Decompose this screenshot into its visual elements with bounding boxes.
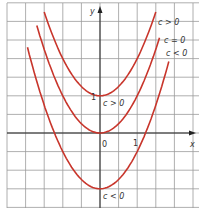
y-axis-arrow-icon xyxy=(98,6,103,13)
curves xyxy=(28,12,169,189)
curve-label-c-negative: c < 0 xyxy=(166,49,187,58)
parabola-chart: y x 0 1 1 c > 0 c = 0 c < 0 c > 0 c < 0 xyxy=(0,0,199,211)
vertex-label-c-negative: c < 0 xyxy=(103,192,124,201)
x-axis-arrow-icon xyxy=(189,131,196,136)
x-axis-label: x xyxy=(189,140,195,149)
curve-label-c-zero: c = 0 xyxy=(164,36,185,45)
curve-label-c-positive: c > 0 xyxy=(158,18,179,27)
y-axis-label: y xyxy=(89,7,95,16)
vertex-label-c-positive: c > 0 xyxy=(103,99,124,108)
origin-label: 0 xyxy=(102,140,107,149)
parabola-curve-2 xyxy=(28,47,169,189)
x-tick-one: 1 xyxy=(133,139,138,148)
y-tick-one: 1 xyxy=(91,93,96,102)
